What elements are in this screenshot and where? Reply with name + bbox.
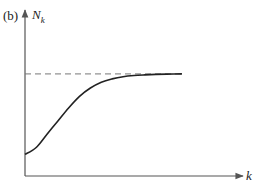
chart (0, 0, 256, 187)
series-layer (25, 74, 182, 155)
axes (25, 10, 243, 176)
y-axis-label-main: N (32, 7, 41, 22)
panel-label: (b) (3, 8, 18, 24)
y-axis-label: Nk (32, 7, 45, 25)
y-axis-label-subscript: k (41, 15, 45, 25)
series-line-n-k (25, 74, 182, 155)
x-axis-label: k (246, 168, 252, 184)
